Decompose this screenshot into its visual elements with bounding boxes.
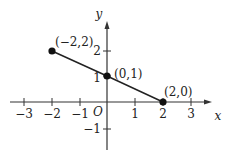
x-axis-arrow-icon	[204, 100, 212, 105]
x-tick-label: 2	[159, 107, 167, 121]
coordinate-plane: −3 −2 −1 1 2 3 2 1 −1 O x y (−2,2) (0,1)…	[0, 0, 239, 167]
origin-label: O	[93, 105, 103, 119]
x-tick-label: 1	[131, 107, 139, 121]
x-axis-label: x	[215, 109, 222, 123]
point-label: (−2,2)	[55, 35, 94, 49]
x-tick-label: −3	[15, 107, 33, 121]
x-tick-label: −1	[71, 107, 89, 121]
data-point	[159, 98, 166, 105]
point-label: (2,0)	[164, 85, 192, 99]
y-axis-arrow-icon	[105, 21, 110, 29]
y-tick-label: 2	[93, 44, 101, 58]
y-tick-label: −1	[83, 122, 101, 136]
x-tick-label: −2	[43, 107, 61, 121]
data-point	[103, 72, 110, 79]
x-tick-label: 3	[187, 107, 195, 121]
point-label: (0,1)	[114, 67, 142, 81]
y-axis-label: y	[95, 7, 103, 21]
